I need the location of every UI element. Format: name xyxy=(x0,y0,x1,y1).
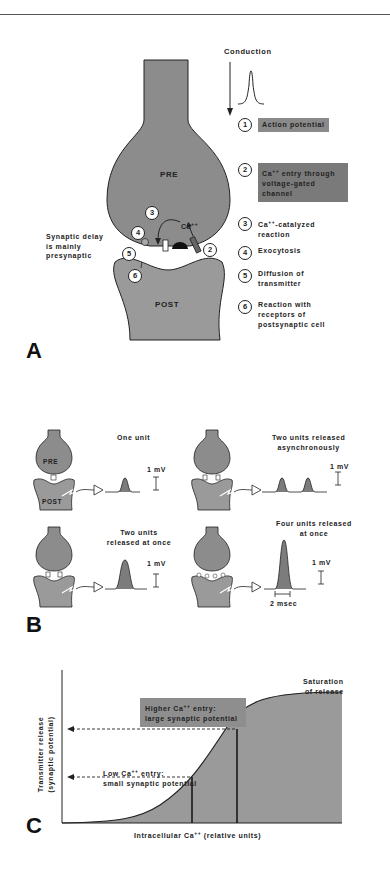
step-line: Ca++ entry through xyxy=(262,166,344,179)
legend-step-4: 4 Exocytosis xyxy=(238,246,301,260)
scale-time: 2 msec xyxy=(270,599,297,609)
step-text: Action potential xyxy=(258,118,329,132)
calcium-label: Ca++ xyxy=(181,220,198,232)
note-line: Synaptic delay xyxy=(46,232,103,242)
step-text: Diffusion of transmitter xyxy=(258,269,304,289)
title-line: Four units released xyxy=(274,519,354,529)
case-one-unit-title: One unit xyxy=(117,433,150,443)
note-line: small synaptic potential xyxy=(103,779,197,789)
panel-letter-a: A xyxy=(26,338,42,364)
x-axis-label: Intracellular Ca++ (relative units) xyxy=(134,829,261,841)
title-line: released at once xyxy=(104,538,174,548)
saturation-label: Saturation of release xyxy=(303,677,344,696)
box-line: large synaptic potential xyxy=(145,714,241,724)
high-calcium-box: Higher Ca++ entry: large synaptic potent… xyxy=(140,698,246,727)
legend-step-6: 6 Reaction with receptors of postsynapti… xyxy=(238,300,325,330)
panel-letter-c: C xyxy=(26,813,42,839)
step-text: Ca++-catalyzed reaction xyxy=(258,217,315,240)
label-line: Transmitter release xyxy=(36,700,46,810)
step-line: postsynaptic cell xyxy=(258,320,325,330)
low-calcium-note: Low Ca++ entry: small synaptic potential xyxy=(103,767,197,788)
synaptic-delay-note: Synaptic delay is mainly presynaptic xyxy=(46,232,103,261)
step-line: transmitter xyxy=(258,279,304,289)
legend-step-2: 2 Ca++ entry through voltage-gated chann… xyxy=(238,163,348,202)
marker-6: 6 xyxy=(128,269,142,283)
step-number: 5 xyxy=(238,269,252,283)
label-line: of release xyxy=(303,687,344,697)
panel-letter-b: B xyxy=(26,612,42,638)
case-async-title: Two units released asynchronously xyxy=(272,433,345,452)
step-line: reaction xyxy=(258,230,315,240)
note-line: is mainly xyxy=(46,242,103,252)
note-line: presynaptic xyxy=(46,251,103,261)
marker-5: 5 xyxy=(122,247,136,261)
pre-label: PRE xyxy=(160,170,178,180)
legend-step-1: 1 Action potential xyxy=(238,118,329,132)
title-line: at once xyxy=(274,529,354,539)
step-line: Reaction with xyxy=(258,300,325,310)
step-text: Reaction with receptors of postsynaptic … xyxy=(258,300,325,330)
y-axis-label: Transmitter release (synaptic potential) xyxy=(36,700,55,810)
mini-pre-label: PRE xyxy=(43,457,58,467)
step-number: 4 xyxy=(238,246,252,260)
step-number: 3 xyxy=(238,217,252,231)
label-line: Saturation xyxy=(303,677,344,687)
case-four-once-title: Four units released at once xyxy=(274,519,354,538)
step-line: channel xyxy=(262,189,344,199)
marker-2: 2 xyxy=(203,243,217,257)
step-line: Diffusion of xyxy=(258,269,304,279)
box-line: Higher Ca++ entry: xyxy=(145,702,241,714)
scale-mv-3: 1 mV xyxy=(147,559,166,569)
scale-mv-4: 1 mV xyxy=(312,558,331,568)
scale-mv-1: 1 mV xyxy=(147,465,166,475)
scale-mv-2: 1 mV xyxy=(330,462,349,472)
step-text: Ca++ entry through voltage-gated channel xyxy=(258,163,348,202)
step-text: Exocytosis xyxy=(258,246,301,256)
step-line: Ca++-catalyzed xyxy=(258,217,315,230)
legend-step-3: 3 Ca++-catalyzed reaction xyxy=(238,217,315,240)
step-line: receptors of xyxy=(258,310,325,320)
step-number: 2 xyxy=(238,163,252,177)
marker-3: 3 xyxy=(145,206,159,220)
step-line: voltage-gated xyxy=(262,179,344,189)
step-number: 6 xyxy=(238,300,252,314)
title-line: Two units released xyxy=(272,433,345,443)
note-line: Low Ca++ entry: xyxy=(103,767,197,779)
case-two-once-title: Two units released at once xyxy=(104,528,174,547)
mini-post-label: POST xyxy=(42,497,62,507)
title-line: asynchronously xyxy=(272,443,345,453)
post-label: POST xyxy=(155,300,179,310)
title-line: Two units xyxy=(104,528,174,538)
marker-4: 4 xyxy=(131,226,145,240)
label-line: (synaptic potential) xyxy=(45,700,55,810)
legend-step-5: 5 Diffusion of transmitter xyxy=(238,269,304,289)
step-number: 1 xyxy=(238,118,252,132)
conduction-label: Conduction xyxy=(224,47,272,57)
